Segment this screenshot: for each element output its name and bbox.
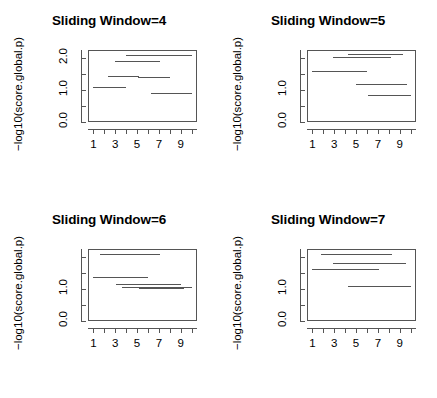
y-axis-tick	[81, 289, 86, 290]
data-segment	[348, 286, 410, 287]
data-segment	[115, 61, 160, 62]
y-axis-tick	[81, 321, 86, 322]
x-axis-tick	[93, 129, 94, 134]
x-axis-tick-label: 3	[327, 138, 341, 150]
x-axis-tick	[378, 129, 379, 134]
y-axis-tick-label: 1.0	[276, 75, 288, 101]
x-axis-tick	[389, 328, 390, 333]
x-axis-tick	[126, 328, 127, 333]
y-axis-tick	[300, 122, 305, 123]
x-axis-tick	[126, 129, 127, 134]
data-segment	[138, 77, 170, 78]
x-axis-tick-label: 5	[349, 138, 363, 150]
x-axis-tick	[104, 129, 105, 134]
x-axis-tick	[148, 129, 149, 134]
x-axis-tick-label: 7	[152, 138, 166, 150]
y-axis-tick	[81, 305, 86, 306]
x-axis-tick	[159, 328, 160, 333]
figure-panel-grid: Sliding Window=4 −log10(score.global.p) …	[0, 0, 437, 398]
x-axis-tick-label: 3	[108, 138, 122, 150]
data-segment	[151, 93, 191, 94]
x-axis-tick-label: 3	[327, 337, 341, 349]
panel-sliding-window-6: Sliding Window=6 −log10(score.global.p) …	[0, 199, 218, 398]
x-axis-tick-label: 1	[86, 138, 100, 150]
data-segment	[93, 87, 126, 88]
y-axis-tick	[300, 74, 305, 75]
panel-title: Sliding Window=5	[219, 13, 437, 28]
data-segment	[100, 254, 160, 255]
y-axis-line	[81, 249, 82, 321]
x-axis-tick-label: 1	[305, 138, 319, 150]
plot-area: 0.01.02.013579	[88, 50, 197, 122]
data-segment	[139, 288, 184, 289]
data-segment	[333, 57, 391, 58]
data-segment	[93, 277, 148, 278]
y-axis-label: −log10(score.global.p)	[231, 29, 243, 159]
y-axis-line	[81, 50, 82, 122]
data-segment	[108, 76, 140, 77]
panel-sliding-window-7: Sliding Window=7 −log10(score.global.p) …	[219, 199, 437, 398]
y-axis-line	[300, 249, 301, 321]
panel-sliding-window-5: Sliding Window=5 −log10(score.global.p) …	[219, 0, 437, 199]
x-axis-tick-label: 7	[371, 138, 385, 150]
x-axis-tick	[367, 129, 368, 134]
x-axis-tick	[148, 328, 149, 333]
x-axis-tick	[115, 328, 116, 333]
y-axis-tick-label: 0.0	[57, 306, 69, 332]
data-segment	[368, 95, 411, 96]
x-axis-tick-label: 5	[130, 138, 144, 150]
y-axis-tick-label: 1.0	[276, 274, 288, 300]
data-segment	[356, 84, 407, 85]
x-axis-tick	[93, 328, 94, 333]
x-axis-tick	[323, 328, 324, 333]
x-axis-tick	[323, 129, 324, 134]
x-axis-tick	[104, 328, 105, 333]
x-axis-tick	[356, 129, 357, 134]
x-axis-tick	[334, 129, 335, 134]
x-axis-tick	[367, 328, 368, 333]
x-axis-tick	[137, 129, 138, 134]
x-axis-tick-label: 9	[393, 138, 407, 150]
x-axis-tick	[192, 328, 193, 333]
x-axis-tick	[115, 129, 116, 134]
x-axis-tick	[181, 129, 182, 134]
panel-title: Sliding Window=4	[0, 13, 218, 28]
x-axis-tick	[400, 129, 401, 134]
x-axis-tick-label: 7	[152, 337, 166, 349]
x-axis-tick	[170, 328, 171, 333]
y-axis-tick-label: 1.0	[57, 75, 69, 101]
plot-area: 0.01.013579	[88, 249, 197, 321]
data-segment	[333, 263, 406, 264]
y-axis-tick-label: 0.0	[276, 107, 288, 133]
panel-sliding-window-4: Sliding Window=4 −log10(score.global.p) …	[0, 0, 218, 199]
x-axis-tick	[137, 328, 138, 333]
x-axis-tick	[356, 328, 357, 333]
x-axis-tick	[312, 328, 313, 333]
y-axis-tick	[300, 58, 305, 59]
x-axis-tick	[181, 328, 182, 333]
y-axis-label: −log10(score.global.p)	[231, 228, 243, 358]
panel-title: Sliding Window=6	[0, 212, 218, 227]
x-axis-tick-label: 7	[371, 337, 385, 349]
x-axis-tick-label: 9	[393, 337, 407, 349]
x-axis-tick-label: 9	[174, 337, 188, 349]
x-axis-tick	[312, 129, 313, 134]
data-segment	[348, 54, 403, 55]
y-axis-label: −log10(score.global.p)	[12, 29, 24, 159]
y-axis-tick-label: 0.0	[57, 107, 69, 133]
y-axis-tick	[300, 321, 305, 322]
x-axis-tick	[378, 328, 379, 333]
x-axis-tick	[170, 129, 171, 134]
x-axis-tick	[345, 328, 346, 333]
y-axis-tick	[81, 58, 86, 59]
data-segment	[321, 254, 392, 255]
y-axis-label: −log10(score.global.p)	[12, 228, 24, 358]
y-axis-tick	[300, 90, 305, 91]
x-axis-tick	[411, 129, 412, 134]
data-segment	[312, 269, 378, 270]
y-axis-tick-label: 1.0	[57, 274, 69, 300]
plot-area: 0.01.013579	[307, 50, 416, 122]
x-axis-tick-label: 1	[305, 337, 319, 349]
y-axis-tick	[81, 74, 86, 75]
y-axis-tick	[300, 257, 305, 258]
